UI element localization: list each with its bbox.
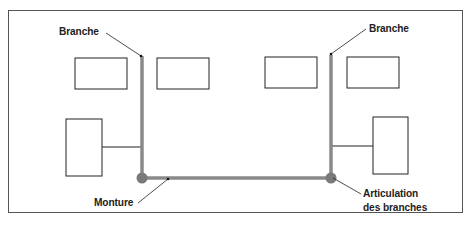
box-side-right: [373, 117, 408, 174]
leader-dot: [167, 178, 170, 181]
leader-dot: [330, 53, 333, 56]
label-joint-line1: Articulation: [363, 187, 418, 200]
leader-joint: [333, 178, 361, 194]
joint-left: [137, 173, 148, 184]
label-mount: Monture: [94, 196, 133, 209]
label-branch-left: Branche: [59, 25, 99, 38]
box-top-2: [157, 58, 209, 89]
leader-branch-left: [106, 33, 141, 56]
label-joint-line2: des branches: [363, 201, 427, 214]
box-top-4: [347, 57, 399, 88]
box-top-3: [265, 57, 317, 88]
box-side-left: [66, 119, 102, 176]
box-top-1: [75, 58, 127, 89]
joint-right: [326, 173, 337, 184]
leader-dot: [140, 55, 143, 58]
label-branch-right: Branche: [369, 22, 409, 35]
leader-branch-right: [331, 29, 366, 54]
